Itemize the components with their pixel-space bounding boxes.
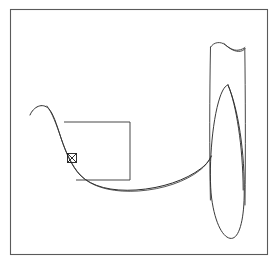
main-curve-inner [47,106,211,191]
figure-canvas [0,0,277,268]
lens-cross-section-group [210,85,244,238]
square-region-group [64,122,130,180]
lens-cross-section-outline [210,85,244,238]
figure-container [0,0,277,268]
tube-group [210,43,246,205]
tube-right-wall [245,49,246,206]
main-curve-group [30,106,211,192]
square-region-outline [64,122,130,180]
figure-frame-border [11,10,268,255]
main-curve-outer [30,106,211,191]
tube-top-rim-back [224,44,245,52]
